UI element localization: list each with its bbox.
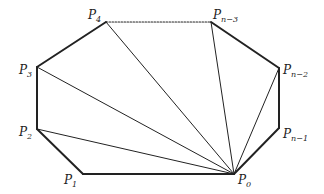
vertex-label-P2: P2 (18, 125, 32, 141)
vertex-label-Pn-1: Pn−1 (282, 127, 308, 143)
diagonal-P0-Pn-2 (234, 68, 279, 174)
vertex-label-P0: P0 (237, 173, 251, 189)
polygon-boundary (37, 22, 279, 174)
vertex-label-P3: P3 (18, 63, 32, 79)
edge-Pn-1-P0 (234, 128, 279, 174)
edge-P1-P2 (37, 129, 83, 174)
vertex-label-Pn-2: Pn−2 (282, 63, 308, 79)
diagonal-P0-P2 (37, 129, 234, 174)
edge-P3-P4 (37, 22, 106, 67)
vertex-label-Pn-3: Pn−3 (212, 8, 238, 24)
vertex-labels: P0P1P2P3P4Pn−3Pn−2Pn−1 (18, 8, 308, 189)
edge-Pn-3-Pn-2 (211, 22, 279, 68)
polygon-triangulation-diagram: P0P1P2P3P4Pn−3Pn−2Pn−1 (0, 0, 324, 194)
fan-diagonals (37, 22, 279, 174)
vertex-label-P4: P4 (87, 8, 101, 24)
vertex-label-P1: P1 (63, 173, 77, 189)
